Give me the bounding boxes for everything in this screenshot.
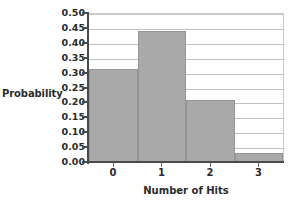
y-tick-mark bbox=[82, 116, 87, 118]
y-tick-mark bbox=[82, 146, 87, 148]
y-tick-mark bbox=[82, 101, 87, 103]
y-tick-label: 0.00 bbox=[56, 157, 85, 167]
gridline bbox=[89, 29, 283, 30]
gridline bbox=[89, 44, 283, 45]
bar-category-0 bbox=[89, 69, 138, 163]
y-tick-mark bbox=[82, 12, 87, 14]
y-tick-label: 0.45 bbox=[56, 23, 85, 33]
y-tick-label: 0.25 bbox=[56, 83, 85, 93]
y-tick-mark bbox=[82, 42, 87, 44]
y-axis-line bbox=[87, 12, 89, 164]
y-tick-mark bbox=[82, 131, 87, 133]
plot-area bbox=[89, 13, 284, 163]
y-tick-mark bbox=[82, 87, 87, 89]
x-axis-title: Number of Hits bbox=[89, 185, 283, 196]
y-tick-mark bbox=[82, 161, 87, 163]
y-tick-label: 0.40 bbox=[56, 38, 85, 48]
x-tick-label: 2 bbox=[190, 167, 230, 178]
gridline bbox=[89, 14, 283, 15]
y-tick-label: 0.50 bbox=[56, 8, 85, 18]
y-tick-label: 0.05 bbox=[56, 142, 85, 152]
y-tick-label: 0.15 bbox=[56, 112, 85, 122]
y-tick-label: 0.10 bbox=[56, 127, 85, 137]
y-tick-label: 0.30 bbox=[56, 68, 85, 78]
y-tick-label: 0.35 bbox=[56, 53, 85, 63]
x-tick-label: 1 bbox=[142, 167, 182, 178]
y-tick-mark bbox=[82, 72, 87, 74]
bar-category-1 bbox=[138, 31, 187, 163]
y-axis-title: Probability bbox=[2, 88, 64, 99]
x-tick-label: 0 bbox=[93, 167, 133, 178]
y-tick-label: 0.20 bbox=[56, 97, 85, 107]
y-axis-tick-labels: 0.50 0.45 0.40 0.35 0.30 0.25 0.20 0.15 … bbox=[56, 8, 85, 163]
gridline bbox=[89, 59, 283, 60]
y-tick-mark bbox=[82, 27, 87, 29]
bar-chart-figure: Probability 0.50 0.45 0.40 0.35 0.30 0.2… bbox=[0, 0, 288, 203]
x-tick-label: 3 bbox=[239, 167, 279, 178]
bar-category-2 bbox=[186, 100, 235, 163]
x-axis-line bbox=[87, 161, 284, 163]
y-tick-mark bbox=[82, 57, 87, 59]
